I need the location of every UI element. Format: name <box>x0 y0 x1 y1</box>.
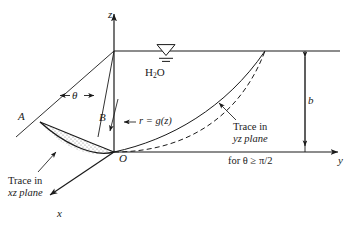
leader-trace-xz <box>38 152 56 172</box>
generator-line-to-a <box>16 51 114 137</box>
axis-label-z: z <box>108 8 112 21</box>
point-label-a: A <box>18 110 25 123</box>
figure-vector-layer <box>0 0 351 238</box>
axis-label-y: y <box>338 154 343 167</box>
h2o-o: O <box>157 66 165 78</box>
axis-label-x: x <box>57 207 62 220</box>
trace-xz-line1: Trace in <box>8 175 43 187</box>
leader-trace-yz <box>219 103 236 120</box>
trace-yz-label: Trace in yz plane <box>233 121 268 145</box>
fluid-label-h2o: H2O <box>145 66 165 81</box>
figure-canvas: z y x O A B θ H2O r = g(z) b Trace in yz… <box>0 0 351 238</box>
angle-label-theta: θ <box>72 89 77 102</box>
x-axis <box>50 152 114 195</box>
trace-yz-line1: Trace in <box>233 121 268 133</box>
radius-function-label: r = g(z) <box>139 115 172 127</box>
water-surface-triangle-icon <box>157 45 175 62</box>
h2o-h: H <box>145 66 153 78</box>
condition-label: for θ ≥ π/2 <box>228 155 272 167</box>
depth-label-b: b <box>308 94 314 107</box>
trace-xz-line2: xz plane <box>8 187 43 199</box>
trace-xz-label: Trace in xz plane <box>8 175 43 199</box>
point-label-b: B <box>99 111 106 124</box>
trace-yz-line2: yz plane <box>233 133 268 145</box>
origin-label-o: O <box>119 152 127 165</box>
